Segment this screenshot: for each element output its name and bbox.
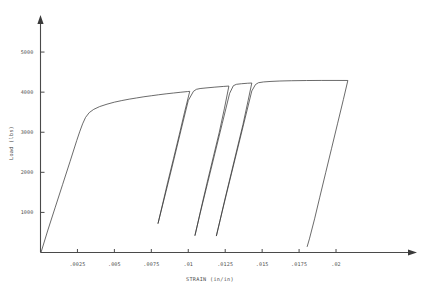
y-axis-title: Load (lbs) [8, 126, 14, 160]
y-axis-arrowhead [37, 15, 43, 24]
y-axis-tick-labels: 10002000300040005000 [21, 49, 34, 215]
x-tick-label: .0075 [143, 261, 159, 267]
y-axis-group: 10002000300040005000 Load (lbs) [8, 15, 45, 253]
x-axis-arrowhead [408, 249, 417, 255]
y-axis-ticks [41, 52, 45, 212]
x-axis-title: STRAIN (in/in) [186, 276, 234, 282]
chart-container: 10002000300040005000 Load (lbs) .0025.00… [0, 0, 425, 293]
data-series-group [41, 80, 348, 251]
x-tick-label: .015 [256, 261, 269, 267]
y-tick-label: 3000 [21, 129, 34, 135]
x-tick-label: .0175 [291, 261, 307, 267]
y-tick-label: 2000 [21, 169, 34, 175]
x-tick-label: .01 [183, 261, 193, 267]
load-strain-curve [41, 80, 348, 251]
y-tick-label: 4000 [21, 89, 34, 95]
x-tick-label: .02 [331, 261, 341, 267]
x-tick-label: .0025 [69, 261, 85, 267]
x-tick-label: .0125 [217, 261, 233, 267]
x-axis-group: .0025.005.0075.01.0125.015.0175.02 STRAI… [41, 249, 418, 282]
x-axis-tick-labels: .0025.005.0075.01.0125.015.0175.02 [69, 261, 340, 267]
x-tick-label: .005 [108, 261, 121, 267]
load-strain-plot: 10002000300040005000 Load (lbs) .0025.00… [0, 0, 425, 293]
y-tick-label: 5000 [21, 49, 34, 55]
y-tick-label: 1000 [21, 209, 34, 215]
